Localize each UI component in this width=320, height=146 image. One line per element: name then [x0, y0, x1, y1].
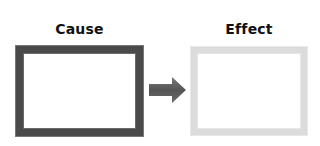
cause-frame	[16, 46, 143, 136]
right-arrow-icon	[148, 76, 188, 104]
effect-frame	[191, 47, 307, 135]
cause-label: Cause	[16, 21, 143, 37]
effect-label: Effect	[191, 21, 307, 37]
